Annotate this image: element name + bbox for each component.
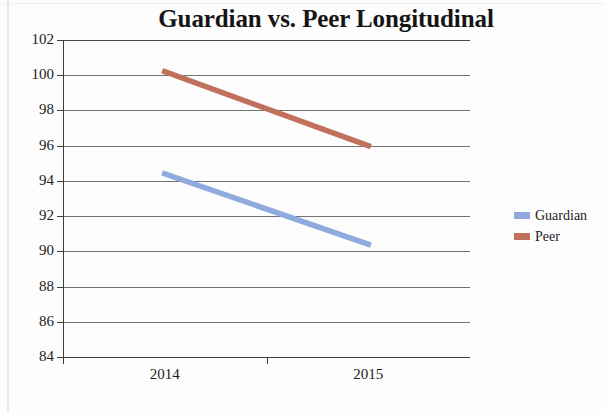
legend-item-label: Guardian	[535, 209, 587, 223]
gridline	[63, 110, 470, 111]
y-axis-line	[63, 40, 64, 358]
x-axis-tick	[63, 357, 64, 364]
gridline	[63, 40, 470, 41]
x-axis-tick-label: 2015	[323, 366, 413, 383]
legend-item: Peer	[514, 227, 602, 246]
plot-area	[63, 40, 470, 357]
legend-swatch-icon	[514, 212, 530, 219]
chart-title: Guardian vs. Peer Longitudinal	[96, 4, 556, 34]
gridline	[63, 216, 470, 217]
legend-swatch-icon	[514, 233, 530, 240]
y-axis-tick-label: 92	[20, 208, 54, 223]
x-axis-tick-label: 2014	[120, 366, 210, 383]
y-axis-labels: 1021009896949290888684	[10, 0, 54, 413]
y-axis-tick	[57, 110, 64, 111]
chart-figure: Guardian vs. Peer Longitudinal 102100989…	[0, 0, 605, 413]
gridline	[63, 181, 470, 182]
y-axis-tick	[57, 146, 64, 147]
y-axis-tick-label: 84	[20, 349, 54, 364]
y-axis-tick	[57, 287, 64, 288]
legend-item-label: Peer	[535, 230, 560, 244]
x-axis-tick	[267, 357, 268, 364]
y-axis-tick	[57, 251, 64, 252]
y-axis-tick-label: 90	[20, 243, 54, 258]
gridline	[63, 322, 470, 323]
y-axis-tick	[57, 322, 64, 323]
y-axis-tick	[57, 181, 64, 182]
y-axis-tick-label: 96	[20, 138, 54, 153]
y-axis-tick	[57, 216, 64, 217]
y-axis-tick	[57, 75, 64, 76]
y-axis-tick-label: 86	[20, 314, 54, 329]
legend: GuardianPeer	[514, 206, 602, 248]
y-axis-tick-label: 88	[20, 279, 54, 294]
y-axis-tick-label: 98	[20, 102, 54, 117]
y-axis-tick	[57, 40, 64, 41]
y-axis-tick-label: 94	[20, 173, 54, 188]
gridline	[63, 287, 470, 288]
page-edge-left	[7, 0, 9, 413]
y-axis-tick-label: 100	[20, 67, 54, 82]
gridline	[63, 146, 470, 147]
legend-item: Guardian	[514, 206, 602, 225]
y-axis-tick-label: 102	[20, 32, 54, 47]
gridline	[63, 75, 470, 76]
gridline	[63, 251, 470, 252]
